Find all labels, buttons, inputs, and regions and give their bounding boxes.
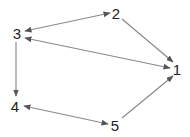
node-2-label: 2	[112, 5, 120, 22]
edges-group	[16, 13, 173, 124]
node-1-label: 1	[173, 61, 181, 78]
edge-4-5	[24, 106, 108, 124]
edge-3-2	[25, 13, 110, 31]
edge-3-1	[25, 38, 170, 68]
node-5-label: 5	[111, 117, 119, 134]
node-4-label: 4	[11, 98, 19, 115]
edge-5-1	[122, 76, 173, 118]
edge-2-1	[122, 19, 173, 62]
node-3-label: 3	[13, 25, 21, 42]
nodes-group: 1 2 3 4 5	[11, 5, 181, 134]
directed-graph: 1 2 3 4 5	[0, 0, 190, 137]
